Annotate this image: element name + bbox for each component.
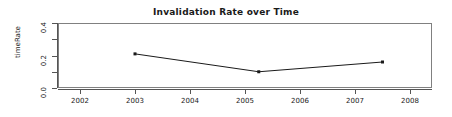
y-tick-label: 0.2 <box>40 55 48 66</box>
y-axis-line <box>57 23 58 88</box>
x-tick-label: 2005 <box>225 97 265 105</box>
y-tick-mark <box>52 23 57 24</box>
x-tick-mark <box>355 89 356 94</box>
x-tick-label: 2002 <box>60 97 100 105</box>
chart-screenshot: Invalidation Rate over Time timeRate 0.0… <box>0 0 452 117</box>
x-tick-mark <box>410 89 411 94</box>
x-tick-label: 2003 <box>115 97 155 105</box>
chart-title: Invalidation Rate over Time <box>0 7 452 17</box>
plot-frame <box>58 23 432 88</box>
x-tick-label: 2008 <box>390 97 430 105</box>
y-tick-mark-minor <box>52 72 57 73</box>
x-tick-label: 2007 <box>335 97 375 105</box>
y-tick-mark <box>52 88 57 89</box>
x-tick-mark <box>190 89 191 94</box>
x-tick-label: 2006 <box>280 97 320 105</box>
x-tick-mark <box>245 89 246 94</box>
y-tick-label: 0.4 <box>40 22 48 33</box>
x-tick-mark <box>80 89 81 94</box>
x-tick-mark <box>135 89 136 94</box>
x-tick-label: 2004 <box>170 97 210 105</box>
y-tick-mark <box>52 56 57 57</box>
y-tick-label: 0.0 <box>40 87 48 98</box>
y-tick-mark-minor <box>52 39 57 40</box>
x-tick-mark <box>300 89 301 94</box>
